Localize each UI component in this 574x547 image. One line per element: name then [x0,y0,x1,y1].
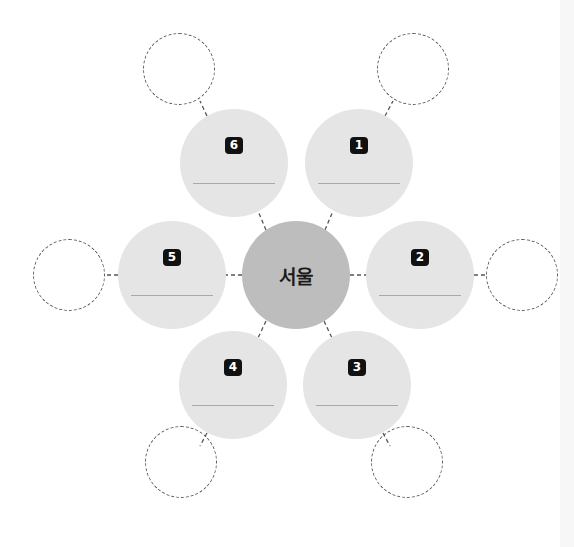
outer-node-5[interactable] [33,239,105,311]
connector-center-4 [258,321,266,338]
connector-center-1 [325,211,333,230]
petal-node-1[interactable]: 1 [305,109,413,217]
outer-node-3[interactable] [371,426,443,498]
petal-number-badge: 1 [350,137,368,154]
outer-node-2[interactable] [486,239,558,311]
outer-node-1[interactable] [377,33,449,105]
petal-node-5[interactable]: 5 [118,221,226,329]
petal-number-badge: 4 [224,359,242,376]
center-label: 서울 [279,262,314,289]
petal-node-4[interactable]: 4 [179,331,287,439]
connector-6-outer [200,101,207,116]
petal-node-3[interactable]: 3 [303,331,411,439]
petal-node-2[interactable]: 2 [366,221,474,329]
answer-line[interactable] [192,405,274,406]
petal-number-badge: 5 [163,249,181,266]
center-node: 서울 [242,221,350,329]
outer-node-6[interactable] [143,33,215,105]
petal-number-badge: 6 [225,137,243,154]
connector-center-3 [324,321,332,338]
petal-number-badge: 3 [348,359,366,376]
connector-1-outer [385,101,393,116]
answer-line[interactable] [131,295,213,296]
answer-line[interactable] [316,405,398,406]
outer-node-4[interactable] [145,426,217,498]
connector-center-6 [258,211,266,230]
answer-line[interactable] [193,183,275,184]
petal-node-6[interactable]: 6 [180,109,288,217]
answer-line[interactable] [318,183,400,184]
answer-line[interactable] [379,295,461,296]
petal-number-badge: 2 [411,249,429,266]
